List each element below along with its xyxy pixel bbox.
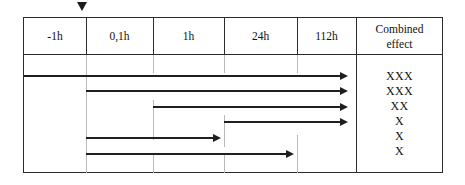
combined-effect-value: XXX xyxy=(386,84,413,99)
figure-canvas: -1h 0,1h 1h 24h 112h Combined effect xyxy=(0,0,465,185)
arrow-shaft xyxy=(86,90,340,92)
body-tick-bottom-112h xyxy=(297,135,298,173)
header-separator-2 xyxy=(153,18,154,55)
combined-effect-value: XX xyxy=(390,99,408,114)
body-tick-top-112h xyxy=(297,55,298,73)
body-tick-bottom-01h xyxy=(86,155,87,173)
column-header-label: 24h xyxy=(252,29,269,43)
arrow-shaft xyxy=(86,153,286,155)
column-header-label: 1h xyxy=(183,29,195,43)
body-tick-mid-24h xyxy=(224,115,225,147)
arrow-shaft xyxy=(24,75,340,77)
table-header-row: -1h 0,1h 1h 24h 112h Combined effect xyxy=(24,18,442,55)
body-tick-top-1h xyxy=(153,55,154,73)
column-header-label: -1h xyxy=(47,29,62,43)
body-tick-bottom-1h xyxy=(153,155,154,173)
column-header-112h: 112h xyxy=(297,18,356,55)
arrow-shaft xyxy=(86,137,213,139)
combined-effect-value: X xyxy=(395,144,404,159)
arrow-shaft xyxy=(224,121,340,123)
column-header-label-line1: Combined xyxy=(376,22,424,36)
column-header-minus1h: -1h xyxy=(24,18,86,55)
column-header-combined-effect: Combined effect xyxy=(356,18,443,55)
arrow-head-icon xyxy=(286,150,294,158)
combined-effect-column: XXX XXX XX X X X xyxy=(356,55,443,173)
combined-effect-value: X xyxy=(395,129,404,144)
column-header-1h: 1h xyxy=(153,18,224,55)
header-separator-5 xyxy=(356,18,357,55)
timeline-table: -1h 0,1h 1h 24h 112h Combined effect xyxy=(23,17,443,173)
combined-effect-value: X xyxy=(395,114,404,129)
header-separator-3 xyxy=(224,18,225,55)
column-header-24h: 24h xyxy=(224,18,297,55)
combined-effect-value: XXX xyxy=(386,69,413,84)
arrow-head-icon xyxy=(213,134,221,142)
header-separator-4 xyxy=(297,18,298,55)
arrow-head-icon xyxy=(340,103,348,111)
body-tick-mid-01h xyxy=(86,65,87,165)
header-separator-1 xyxy=(86,18,87,55)
arrow-head-icon xyxy=(340,72,348,80)
column-header-label: 0,1h xyxy=(109,29,129,43)
body-tick-bottom-24h xyxy=(224,155,225,173)
column-header-01h: 0,1h xyxy=(86,18,153,55)
column-header-label: 112h xyxy=(315,29,338,43)
column-header-label-line2: effect xyxy=(387,37,413,51)
arrow-shaft xyxy=(153,106,340,108)
arrow-head-icon xyxy=(340,118,348,126)
arrow-head-icon xyxy=(340,87,348,95)
body-tick-top-24h xyxy=(224,55,225,73)
down-triangle-marker-icon xyxy=(77,2,87,11)
